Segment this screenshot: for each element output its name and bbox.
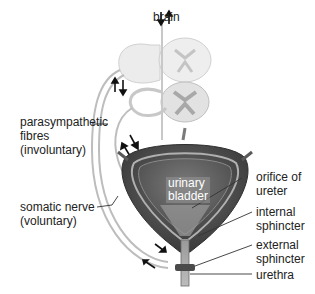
spinal-cord-upper (119, 38, 211, 83)
urinary-bladder (118, 128, 252, 286)
label-orifice-of-ureter: orifice of ureter (256, 170, 301, 198)
label-urethra: urethra (256, 268, 294, 282)
label-internal-sphincter: internal sphincter (256, 205, 305, 233)
spinal-cord-lower (130, 82, 209, 122)
label-somatic-nerve: somatic nerve (voluntary) (20, 200, 95, 228)
label-external-sphincter: external sphincter (256, 238, 305, 266)
label-parasympathetic-fibres: parasympathetic fibres (involuntary) (20, 115, 108, 157)
label-brain: brain (153, 10, 180, 24)
label-urinary-bladder: urinary bladder (166, 177, 210, 203)
